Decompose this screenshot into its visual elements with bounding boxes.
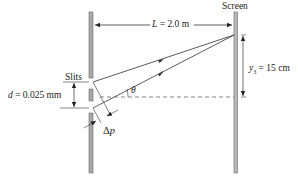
p-symbol: p xyxy=(110,125,115,136)
perpendicular-construct xyxy=(93,82,111,116)
delta-p-arrow-right xyxy=(107,110,118,116)
ray-upper xyxy=(93,35,234,82)
d-label: d = 0.025 mm xyxy=(8,91,61,101)
screen xyxy=(234,12,238,173)
delta-symbol: Δ xyxy=(103,125,110,136)
barrier-top xyxy=(89,12,93,78)
barrier-middle xyxy=(89,89,93,101)
d-value: = 0.025 mm xyxy=(13,90,62,100)
L-value: = 2.0 m xyxy=(157,19,189,29)
slits-label: Slits xyxy=(65,73,82,83)
double-slit-diagram xyxy=(0,0,298,176)
perpendicular-line xyxy=(93,108,101,123)
theta-label: θ xyxy=(131,86,136,96)
slit-barrier xyxy=(89,12,93,173)
delta-p-label: Δp xyxy=(103,126,115,137)
ray-lower-arrow xyxy=(158,71,164,77)
y3-label: y3 = 15 cm xyxy=(249,64,290,75)
L-label: L = 2.0 m xyxy=(152,20,189,30)
screen-label: Screen xyxy=(222,2,248,12)
y-value: = 15 cm xyxy=(256,63,290,73)
barrier-bottom xyxy=(89,113,93,173)
